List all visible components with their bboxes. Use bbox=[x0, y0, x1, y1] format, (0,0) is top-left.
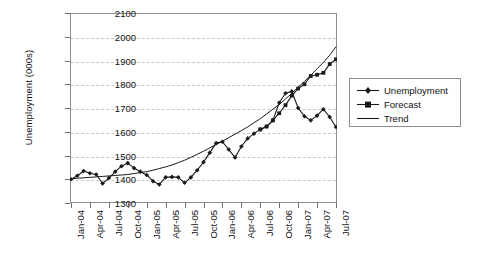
data-point-marker bbox=[315, 73, 319, 77]
data-point-marker bbox=[258, 127, 262, 131]
x-tick-label: Jan-05 bbox=[151, 210, 162, 239]
x-tick-mark bbox=[317, 203, 318, 208]
x-tick-mark bbox=[147, 203, 148, 208]
y-tick-label: 1500 bbox=[76, 150, 136, 161]
x-tick-mark bbox=[336, 203, 337, 208]
data-point-marker bbox=[321, 71, 325, 75]
data-point-marker bbox=[277, 111, 281, 115]
legend-label-unemployment: Unemployment bbox=[384, 85, 448, 96]
y-tick-label: 2100 bbox=[76, 8, 136, 19]
y-tick-label: 2000 bbox=[76, 31, 136, 42]
x-tick-mark bbox=[109, 203, 110, 208]
x-tick-mark bbox=[71, 203, 72, 208]
x-tick-label: Oct-06 bbox=[283, 210, 294, 239]
x-tick-label: Jul-07 bbox=[340, 210, 351, 236]
x-tick-label: Apr-06 bbox=[245, 210, 256, 239]
x-tick-label: Apr-05 bbox=[170, 210, 181, 239]
data-point-marker bbox=[334, 57, 337, 61]
y-tick-mark bbox=[65, 156, 70, 157]
x-tick-mark bbox=[185, 203, 186, 208]
legend-label-trend: Trend bbox=[384, 113, 408, 124]
chart-legend: Unemployment Forecast Trend bbox=[349, 78, 461, 127]
y-tick-label: 1700 bbox=[76, 103, 136, 114]
y-tick-label: 1900 bbox=[76, 55, 136, 66]
data-point-marker bbox=[265, 125, 269, 129]
x-tick-mark bbox=[260, 203, 261, 208]
x-tick-mark bbox=[298, 203, 299, 208]
x-tick-label: Jul-05 bbox=[189, 210, 200, 236]
x-tick-mark bbox=[128, 203, 129, 208]
y-tick-mark bbox=[65, 108, 70, 109]
x-tick-label: Jan-06 bbox=[226, 210, 237, 239]
y-tick-label: 1400 bbox=[76, 174, 136, 185]
x-tick-label: Jul-04 bbox=[113, 210, 124, 236]
legend-item-forecast: Forecast bbox=[357, 98, 421, 111]
data-point-marker bbox=[170, 175, 175, 180]
legend-marker-diamond-icon bbox=[357, 85, 379, 96]
y-tick-mark bbox=[65, 13, 70, 14]
y-axis-title: Unemployment (000s) bbox=[23, 18, 34, 178]
data-point-marker bbox=[271, 118, 275, 122]
x-tick-mark bbox=[90, 203, 91, 208]
y-tick-mark bbox=[65, 84, 70, 85]
x-tick-label: Jan-04 bbox=[75, 210, 86, 239]
x-tick-mark bbox=[166, 203, 167, 208]
data-point-marker bbox=[334, 125, 337, 130]
x-tick-label: Oct-05 bbox=[208, 210, 219, 239]
x-tick-mark bbox=[279, 203, 280, 208]
data-point-marker bbox=[284, 103, 288, 107]
y-tick-label: 1800 bbox=[76, 79, 136, 90]
y-tick-label: 1600 bbox=[76, 126, 136, 137]
y-tick-mark bbox=[65, 203, 70, 204]
y-tick-mark bbox=[65, 179, 70, 180]
y-tick-mark bbox=[65, 132, 70, 133]
x-tick-mark bbox=[222, 203, 223, 208]
x-tick-label: Jul-06 bbox=[264, 210, 275, 236]
x-tick-label: Apr-04 bbox=[94, 210, 105, 239]
data-point-marker bbox=[328, 62, 332, 66]
x-tick-mark bbox=[241, 203, 242, 208]
legend-marker-square-icon bbox=[357, 99, 379, 110]
legend-item-unemployment: Unemployment bbox=[357, 84, 448, 97]
legend-marker-line-icon bbox=[357, 113, 379, 124]
x-tick-label: Oct-04 bbox=[132, 210, 143, 239]
y-tick-mark bbox=[65, 61, 70, 62]
x-tick-label: Apr-07 bbox=[321, 210, 332, 239]
legend-item-trend: Trend bbox=[357, 112, 408, 125]
x-tick-mark bbox=[204, 203, 205, 208]
y-tick-mark bbox=[65, 37, 70, 38]
unemployment-forecast-chart: Unemployment (000s) 13001400150016001700… bbox=[0, 0, 477, 256]
x-tick-label: Jan-07 bbox=[302, 210, 313, 239]
legend-label-forecast: Forecast bbox=[384, 99, 421, 110]
